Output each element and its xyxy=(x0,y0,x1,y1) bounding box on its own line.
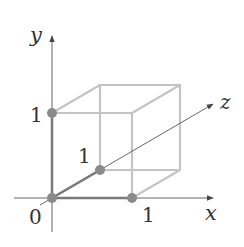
unit-cube-diagram: y z x 1 1 0 1 xyxy=(0,0,244,247)
axis-label-y: y xyxy=(29,23,43,47)
unit-points xyxy=(47,108,137,203)
axis-label-x: x xyxy=(205,201,217,225)
unit-edges xyxy=(52,113,132,198)
cube-edge-5 xyxy=(52,85,100,113)
point-origin xyxy=(47,193,57,203)
tick-label-x-one: 1 xyxy=(142,203,155,227)
axis-label-z: z xyxy=(219,90,231,114)
tick-label-z-one: 1 xyxy=(78,144,91,168)
tick-label-origin: 0 xyxy=(29,205,42,229)
cube-edge-8 xyxy=(132,170,180,198)
cube-edge-11 xyxy=(132,85,180,113)
unit-edge-z xyxy=(52,170,100,198)
point-y-unit xyxy=(47,108,57,118)
tick-label-y-one: 1 xyxy=(30,103,43,127)
point-x-unit xyxy=(127,193,137,203)
point-z-unit xyxy=(95,165,105,175)
cube-edges xyxy=(52,85,180,198)
